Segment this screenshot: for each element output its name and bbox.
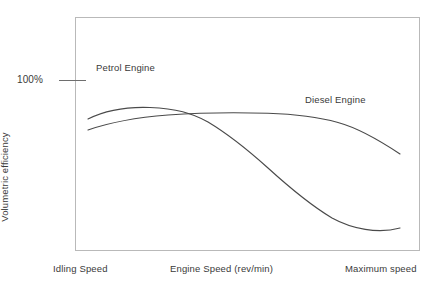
y-axis-tick-label-100: 100% (17, 73, 43, 86)
petrol-engine-label: Petrol Engine (96, 62, 155, 74)
y-axis-tick-100 (59, 80, 86, 81)
diesel-engine-label: Diesel Engine (305, 94, 366, 106)
x-axis-title: Engine Speed (rev/min) (170, 263, 273, 275)
x-axis-label-maximum-speed: Maximum speed (345, 263, 417, 275)
plot-area-frame (75, 17, 420, 251)
x-axis-label-idling-speed: Idling Speed (53, 263, 108, 275)
volumetric-efficiency-chart: 100% Petrol Engine Diesel Engine Volumet… (0, 0, 438, 287)
y-axis-title: Volumetric efficiency (0, 117, 11, 237)
